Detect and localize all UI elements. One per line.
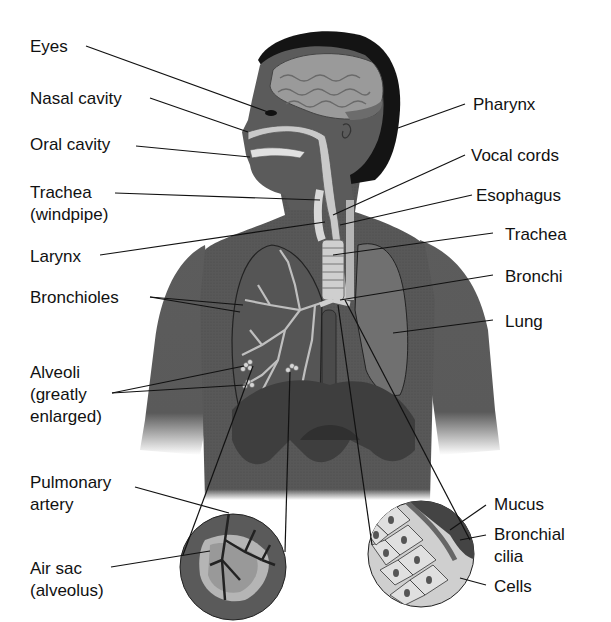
label-larynx: Larynx — [30, 247, 82, 266]
labels-left: Eyes Nasal cavity Oral cavity Trachea (w… — [30, 37, 122, 600]
label-bronchioles: Bronchioles — [30, 288, 119, 307]
label-eyes: Eyes — [30, 37, 68, 56]
label-oral-cavity: Oral cavity — [30, 135, 111, 154]
label-bronchial-cilia-sub: cilia — [494, 547, 524, 566]
cilia-cells-zoom-circle — [365, 495, 480, 607]
diaphragm — [232, 380, 415, 464]
label-alveoli-sub2: enlarged) — [30, 407, 102, 426]
label-alveoli: Alveoli — [30, 363, 80, 382]
label-bronchial-cilia: Bronchial — [494, 525, 565, 544]
label-alveoli-sub1: (greatly — [30, 385, 87, 404]
label-lung: Lung — [505, 312, 543, 331]
respiratory-system-diagram: Eyes Nasal cavity Oral cavity Trachea (w… — [0, 0, 611, 622]
label-air-sac-sub: (alveolus) — [30, 581, 104, 600]
label-pharynx: Pharynx — [473, 95, 536, 114]
label-vocal-cords: Vocal cords — [471, 146, 559, 165]
label-trachea-windpipe-sub: (windpipe) — [30, 205, 108, 224]
label-cells: Cells — [494, 577, 532, 596]
label-nasal-cavity: Nasal cavity — [30, 89, 122, 108]
label-bronchi: Bronchi — [505, 267, 563, 286]
label-pulmonary-artery: Pulmonary — [30, 473, 112, 492]
label-pulmonary-artery-sub: artery — [30, 495, 74, 514]
label-esophagus: Esophagus — [476, 186, 561, 205]
air-sac-zoom-circle — [180, 512, 286, 620]
label-air-sac: Air sac — [30, 559, 82, 578]
label-trachea: Trachea — [505, 225, 567, 244]
label-trachea-windpipe: Trachea — [30, 183, 92, 202]
label-mucus: Mucus — [494, 495, 544, 514]
